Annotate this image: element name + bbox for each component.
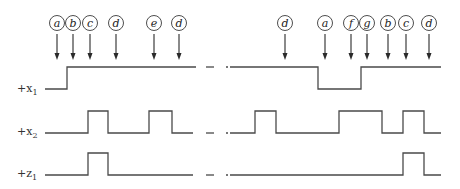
event-label: d xyxy=(425,17,432,30)
event-label: e xyxy=(151,17,158,30)
arrowhead-icon xyxy=(114,53,119,60)
arrowhead-icon xyxy=(404,53,409,60)
arrowhead-icon xyxy=(365,53,370,60)
waveform-x2 xyxy=(45,111,441,133)
event-label: b xyxy=(384,17,391,30)
signal-label-x1: +x1 xyxy=(17,82,38,97)
event-label: b xyxy=(69,17,76,30)
arrowhead-icon xyxy=(71,53,76,60)
event-label: c xyxy=(87,17,93,30)
event-marker-b: b xyxy=(381,16,396,61)
event-marker-a: a xyxy=(318,16,333,61)
timing-diagram: abcdeddafgbcd +x1 +x2 +z1 xyxy=(0,0,460,189)
arrowhead-icon xyxy=(55,53,60,60)
event-marker-c: c xyxy=(399,16,414,61)
arrowhead-icon xyxy=(177,53,182,60)
event-marker-d: d xyxy=(109,16,124,61)
signal-label-z1: +z1 xyxy=(17,167,37,182)
signal-labels: +x1 +x2 +z1 xyxy=(17,82,38,182)
event-label: c xyxy=(403,17,409,30)
waveform-x1 xyxy=(45,67,441,89)
arrowhead-icon xyxy=(349,53,354,60)
event-marker-c: c xyxy=(83,16,98,61)
event-label: g xyxy=(363,17,370,30)
signal-label-x2: +x2 xyxy=(17,125,38,140)
event-label: d xyxy=(112,17,119,30)
arrowhead-icon xyxy=(427,53,432,60)
event-markers: abcdeddafgbcd xyxy=(50,16,437,61)
event-marker-b: b xyxy=(66,16,81,61)
event-marker-d: d xyxy=(172,16,187,61)
event-marker-f: f xyxy=(344,16,359,61)
arrowhead-icon xyxy=(323,53,328,60)
event-marker-g: g xyxy=(360,16,375,61)
arrowhead-icon xyxy=(386,53,391,60)
event-marker-d: d xyxy=(422,16,437,61)
arrowhead-icon xyxy=(152,53,157,60)
arrowhead-icon xyxy=(88,53,93,60)
event-label: a xyxy=(322,17,329,30)
event-label: a xyxy=(54,17,61,30)
event-label: d xyxy=(281,17,288,30)
event-marker-e: e xyxy=(147,16,162,61)
event-marker-a: a xyxy=(50,16,65,61)
waveform-z1 xyxy=(45,153,441,175)
arrowhead-icon xyxy=(283,53,288,60)
event-label: d xyxy=(175,17,182,30)
event-marker-d: d xyxy=(278,16,293,61)
